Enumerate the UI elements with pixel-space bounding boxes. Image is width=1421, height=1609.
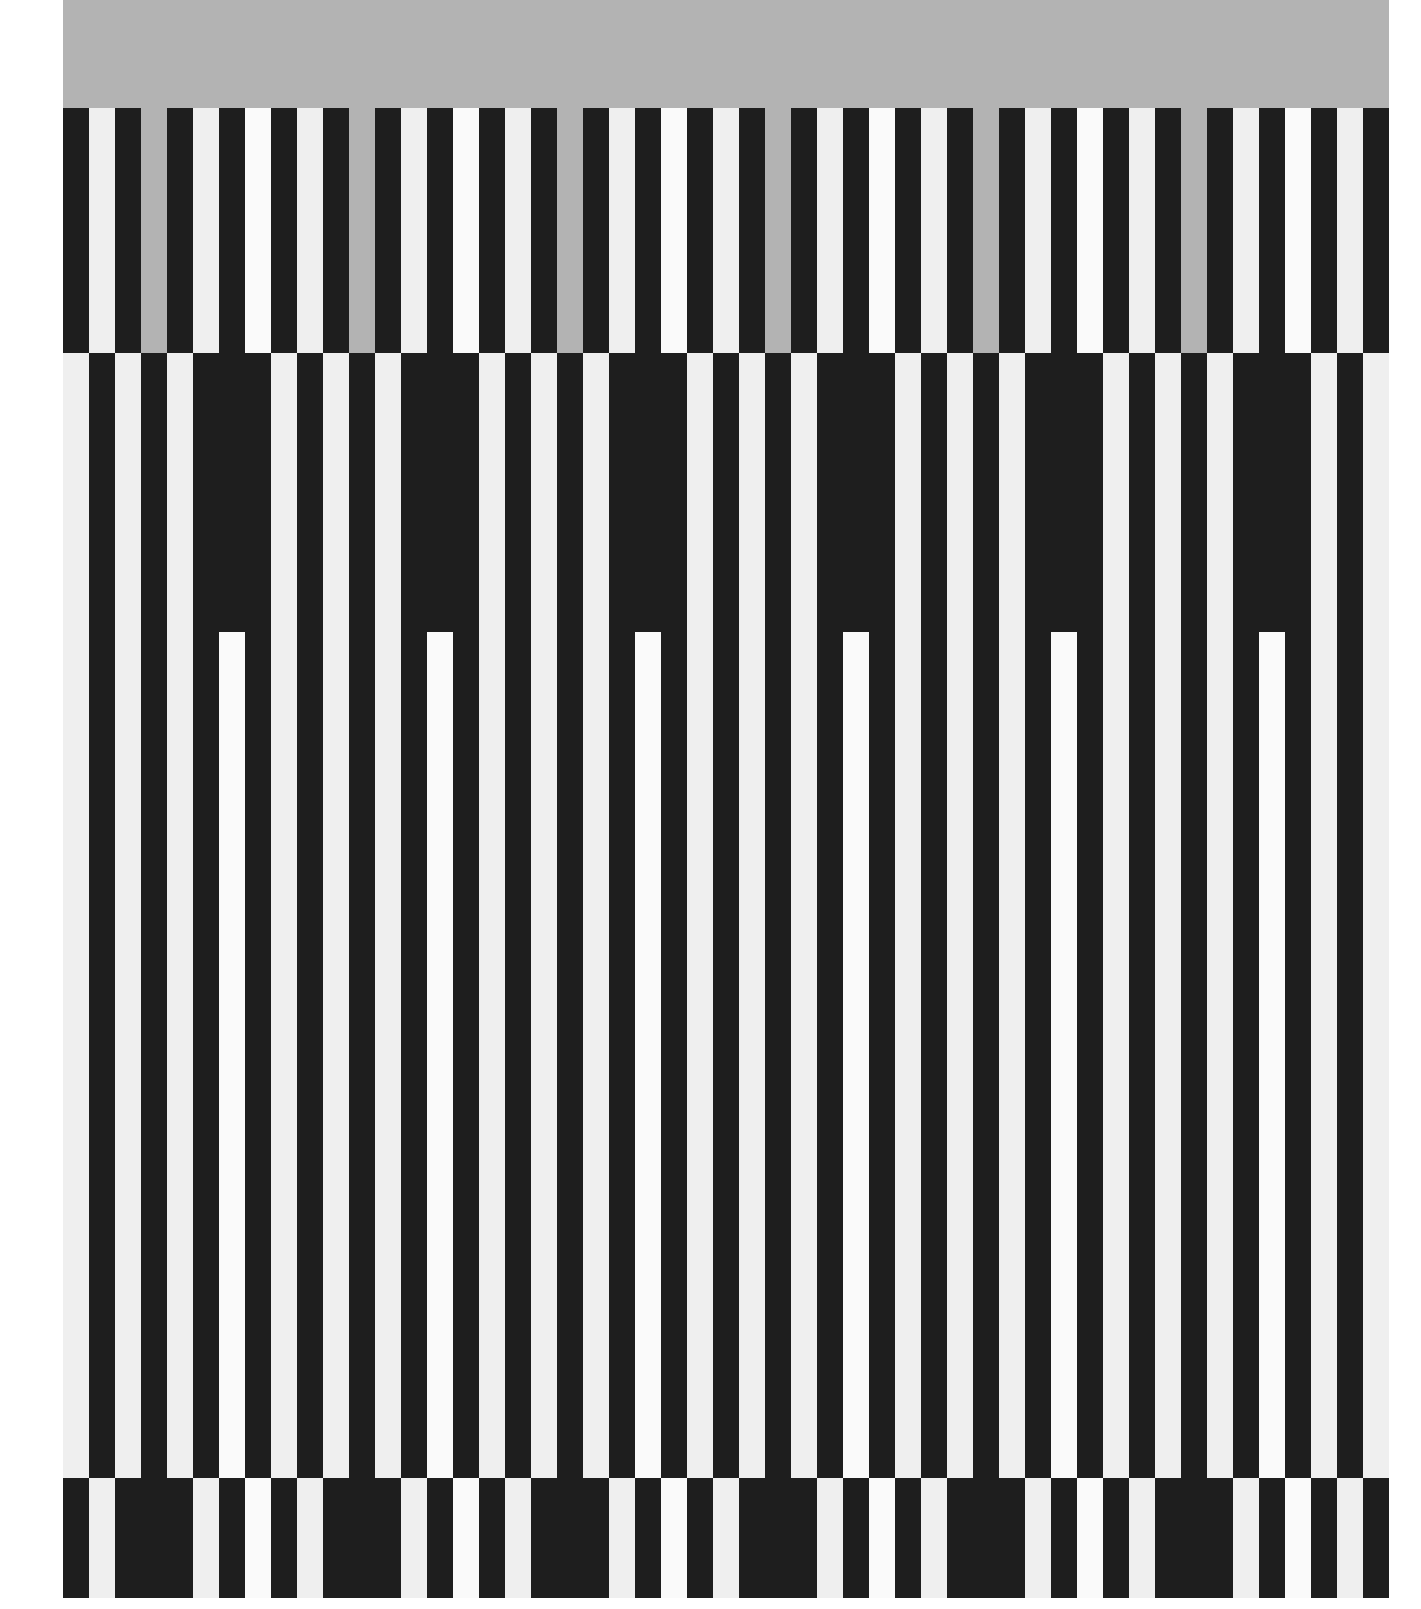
stripe [869, 1478, 895, 1598]
stripe [219, 108, 245, 353]
stripe [1129, 108, 1155, 353]
top-stripe-band [63, 108, 1390, 353]
stripe [765, 353, 791, 1478]
stripe [765, 1478, 791, 1598]
stripe [479, 108, 505, 353]
stripe [1025, 353, 1051, 1478]
stripe [1051, 108, 1077, 353]
stripe [557, 108, 583, 353]
stripe [843, 353, 869, 1478]
stripe [427, 0, 453, 108]
stripe [219, 1478, 245, 1598]
stripe [947, 1478, 973, 1598]
stripe [115, 353, 141, 1478]
stripe [1337, 108, 1363, 353]
stripe [1207, 108, 1233, 353]
stripe [63, 0, 89, 108]
stripe [531, 1478, 557, 1598]
stripe [1129, 1478, 1155, 1598]
stripe [1155, 108, 1181, 353]
stripe [167, 1478, 193, 1598]
stripe [1103, 353, 1129, 1478]
stripe [375, 353, 401, 1478]
stripe [453, 353, 479, 1478]
stripe [661, 0, 687, 108]
stripe [1051, 0, 1077, 108]
stripe [1103, 108, 1129, 353]
stripe [609, 353, 635, 1478]
stripe [349, 1478, 375, 1598]
stripe [401, 353, 427, 1478]
stripe [1025, 108, 1051, 353]
bottom-stripe-band [63, 1478, 1390, 1598]
stripe [63, 108, 89, 353]
stripe [479, 1478, 505, 1598]
stripe [1051, 353, 1077, 1478]
stripe [1233, 353, 1259, 1478]
stripe [999, 0, 1025, 108]
stripe [401, 1478, 427, 1598]
stripe [89, 0, 115, 108]
stripe [1259, 108, 1285, 353]
stripe [635, 1478, 661, 1598]
stripe [713, 353, 739, 1478]
stripe [297, 108, 323, 353]
stripe [1337, 0, 1363, 108]
stripe [297, 0, 323, 108]
stripe-notch [219, 632, 245, 1478]
stripe [557, 353, 583, 1478]
stripe [713, 0, 739, 108]
stripe [1181, 108, 1207, 353]
stripe [219, 353, 245, 1478]
stripe [141, 353, 167, 1478]
stripe [947, 353, 973, 1478]
stripe [167, 353, 193, 1478]
stripe [791, 353, 817, 1478]
stripe [505, 0, 531, 108]
stripe [739, 0, 765, 108]
stripe [1077, 353, 1103, 1478]
stripe [895, 1478, 921, 1598]
stripe [63, 353, 89, 1478]
stripe [193, 0, 219, 108]
stripe [1129, 353, 1155, 1478]
stripe [219, 0, 245, 108]
stripe [635, 108, 661, 353]
stripe [1285, 108, 1311, 353]
stripe [817, 1478, 843, 1598]
stripe [765, 0, 791, 108]
stripe [115, 108, 141, 353]
stripe-notch [427, 632, 453, 1478]
stripe [1285, 1478, 1311, 1598]
stripe [323, 353, 349, 1478]
op-art-stripe-composition [0, 0, 1421, 1609]
stripe [349, 353, 375, 1478]
stripe [1337, 353, 1363, 1478]
stripe [427, 108, 453, 353]
stripe [1077, 108, 1103, 353]
stripe [1207, 1478, 1233, 1598]
stripe [973, 1478, 999, 1598]
stripe [817, 108, 843, 353]
stripe [349, 0, 375, 108]
stripe [297, 353, 323, 1478]
stripe [1155, 353, 1181, 1478]
stripe [947, 0, 973, 108]
stripe [323, 1478, 349, 1598]
stripe [739, 1478, 765, 1598]
stripe [557, 0, 583, 108]
stripe [479, 0, 505, 108]
stripe [1259, 0, 1285, 108]
stripe [531, 108, 557, 353]
stripe [791, 1478, 817, 1598]
stripe [791, 108, 817, 353]
stripe [453, 0, 479, 108]
stripe [973, 108, 999, 353]
stripe-notch [1051, 632, 1077, 1478]
stripe [193, 1478, 219, 1598]
stripe [947, 108, 973, 353]
stripe [479, 353, 505, 1478]
stripe [1025, 1478, 1051, 1598]
stripe [375, 108, 401, 353]
stripe [453, 1478, 479, 1598]
